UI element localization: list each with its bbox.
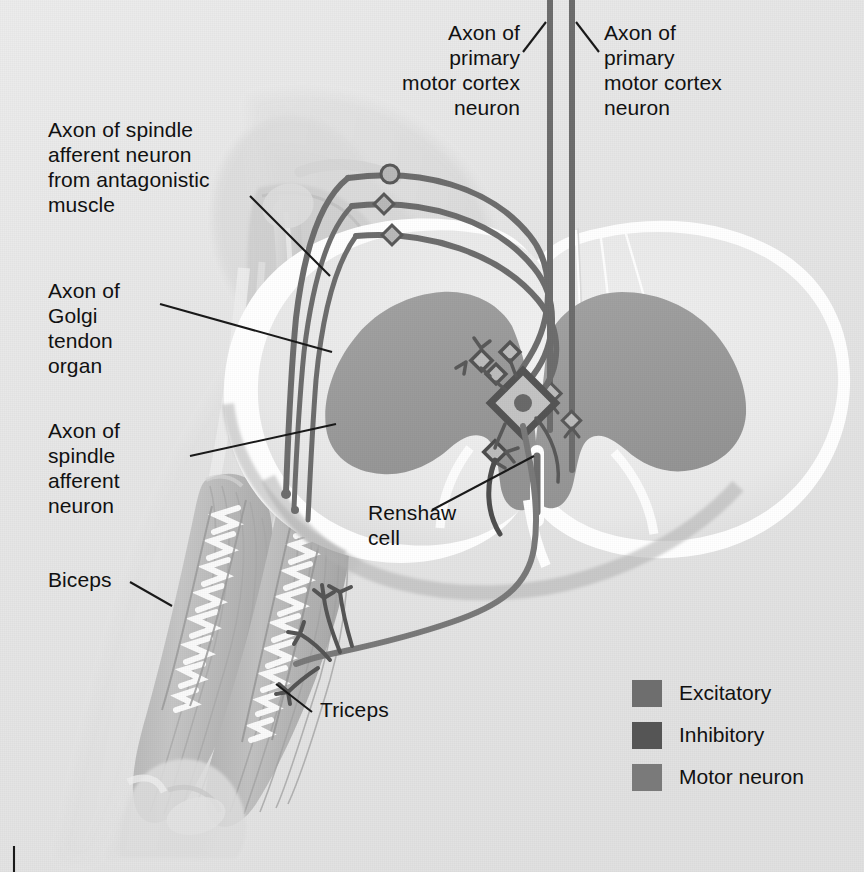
label-biceps: Biceps <box>48 567 158 592</box>
motor-neuron-nucleus <box>514 394 532 412</box>
figure-container: Axon of primary motor cortex neuron Axon… <box>0 0 864 872</box>
label-axon-spindle-afferent: Axon of spindle afferent neuron <box>48 418 198 518</box>
receptor-bulb-2 <box>291 506 299 514</box>
label-triceps: Triceps <box>320 697 440 722</box>
legend-item-motor-neuron: Motor neuron <box>632 756 832 798</box>
label-axon-motor-cortex-left: Axon of primary motor cortex neuron <box>368 20 520 120</box>
label-axon-golgi-tendon: Axon of Golgi tendon organ <box>48 278 198 378</box>
legend-label-motor-neuron: Motor neuron <box>679 765 804 789</box>
label-axon-spindle-antagonistic: Axon of spindle afferent neuron from ant… <box>48 117 268 217</box>
legend-swatch-inhibitory <box>632 722 662 749</box>
legend-item-inhibitory: Inhibitory <box>632 714 832 756</box>
legend-label-excitatory: Excitatory <box>679 681 771 705</box>
legend-swatch-excitatory <box>632 680 662 707</box>
legend-item-excitatory: Excitatory <box>632 672 832 714</box>
legend-label-inhibitory: Inhibitory <box>679 723 764 747</box>
label-axon-motor-cortex-right: Axon of primary motor cortex neuron <box>604 20 794 120</box>
receptor-bulb-1 <box>281 489 291 499</box>
legend: Excitatory Inhibitory Motor neuron <box>632 672 832 812</box>
label-renshaw-cell: Renshaw cell <box>368 500 518 550</box>
legend-swatch-motor-neuron <box>632 764 662 791</box>
